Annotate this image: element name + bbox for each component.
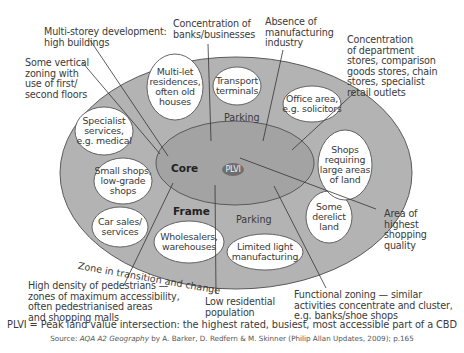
source-rest: by A. Barker, D. Redfern & M. Skinner (P… [149, 334, 414, 343]
text-line: Some vertical [25, 58, 89, 69]
bubble-light-manufacturing-text: Limited light manufacturing [227, 237, 303, 267]
callout-vertical-zoning: Some vertical zoning with use of first/ … [25, 58, 89, 100]
text-line: high buildings [44, 38, 167, 49]
bubble-transport-text: Transport terminals [213, 70, 261, 102]
text-line: second floors [25, 90, 89, 101]
source-title: AQA A2 Geography [80, 334, 149, 343]
text-line: Area of [384, 209, 427, 220]
source-prefix: Source: [50, 334, 79, 343]
text-line: banks/businesses [173, 30, 255, 41]
frame-label: Frame [173, 205, 210, 217]
bubble-multi-let-text: Multi-let residences, often old houses [147, 56, 203, 118]
text-line: terminals [216, 86, 258, 96]
callout-multi-storey: Multi-storey development: high buildings [44, 27, 167, 48]
bubble-derelict-text: Some derelict land [306, 200, 352, 234]
core-label: Core [171, 162, 198, 174]
bubble-small-shops-text: Small shops, low-grade shops [94, 162, 152, 200]
plvi-badge: PLVI [222, 163, 244, 176]
text-line: Absence of [265, 17, 334, 28]
bubble-large-shops-text: Shops requiring large areas of land [318, 143, 372, 187]
text-line: Low residential [205, 297, 275, 308]
text-line: land [319, 222, 338, 232]
parking-bottom-label: Parking [236, 214, 272, 225]
text-line: Concentration [347, 35, 437, 46]
text-line: Concentration of [173, 19, 255, 30]
text-line: warehouses [162, 242, 216, 252]
parking-top-label: Parking [224, 112, 260, 123]
text-line: industry [265, 38, 334, 49]
callout-low-residential: Low residential population [205, 297, 275, 318]
bubble-wholesalers-text: Wholesalers, warehouses [154, 227, 224, 257]
text-line: manufacturing [232, 252, 298, 262]
text-line: retail outlets [347, 88, 437, 99]
text-line: houses [159, 97, 191, 107]
source-citation: Source: AQA A2 Geography by A. Barker, D… [0, 334, 464, 343]
text-line: High density of pedestrians — [28, 281, 180, 292]
text-line: services [102, 227, 139, 237]
bubble-car-sales-text: Car sales/ services [92, 212, 148, 242]
text-line: of land [330, 175, 361, 185]
text-line: e.g. solicitors [282, 104, 341, 114]
callout-manufacturing: Absence of manufacturing industry [265, 17, 334, 49]
text-line: shops [110, 186, 136, 196]
callout-pedestrians: High density of pedestrians — zones of m… [28, 281, 180, 323]
text-line: e.g. medical [76, 136, 131, 146]
callout-department: Concentration of department stores, comp… [347, 35, 437, 99]
text-line: Functional zoning — similar [294, 290, 453, 301]
plvi-definition: PLVI = Peak land value intersection: the… [0, 319, 464, 330]
text-line: quality [384, 241, 427, 252]
callout-highest-shopping: Area of highest shopping quality [384, 209, 427, 251]
bubble-specialist-text: Specialist services, e.g. medical [75, 112, 133, 150]
text-line: population [205, 308, 275, 319]
callout-banks: Concentration of banks/businesses [173, 19, 255, 40]
text-line: Multi-storey development: [44, 27, 167, 38]
callout-functional-zoning: Functional zoning — similar activities c… [294, 290, 453, 322]
bubble-office-text: Office area, e.g. solicitors [283, 88, 341, 120]
